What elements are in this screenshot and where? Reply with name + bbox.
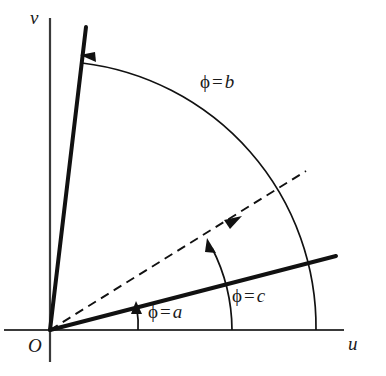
phi-symbol-a: ϕ [148,301,158,322]
diagram-svg [0,0,386,376]
u-axis-label: u [348,334,358,353]
v-axis-label: v [30,8,38,27]
origin-label: O [28,336,42,355]
equals-sign-c: = [242,285,257,306]
equals-sign-b: = [210,71,225,92]
phi-a-value: a [173,301,183,322]
arc-phi-c-arrowhead [205,238,216,253]
annotation-phi-c: ϕ=c [232,286,265,305]
ray-phi-b [50,27,86,330]
equals-sign-a: = [158,301,173,322]
ray-phi-c-arrowhead [224,216,242,229]
ray-phi-a [50,256,336,330]
annotation-phi-a: ϕ=a [148,302,182,321]
phi-symbol-b: ϕ [200,71,210,92]
phi-b-value: b [225,71,235,92]
figure-canvas: v u O ϕ=b ϕ=a ϕ=c [0,0,386,376]
annotation-phi-b: ϕ=b [200,72,234,91]
phi-c-value: c [257,285,265,306]
phi-symbol-c: ϕ [232,285,242,306]
